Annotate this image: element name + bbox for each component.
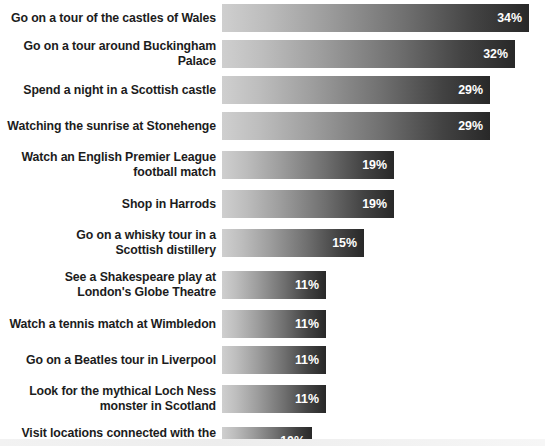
bar-category-label-text: Watch a tennis match at Wimbledon: [9, 317, 216, 332]
bar-track: 29%: [222, 72, 545, 108]
bar-row: Go on a Beatles tour in Liverpool11%: [0, 342, 545, 378]
bar-track: 11%: [222, 264, 545, 306]
bar-category-label-text: Watch an English Premier League football…: [21, 150, 216, 179]
bar: 32%: [222, 40, 515, 68]
bar-row: Go on a tour around Buckingham Palace32%: [0, 36, 545, 72]
bar-category-label-text: Go on a whisky tour in a Scottish distil…: [76, 228, 216, 257]
bar-category-label-text: Go on a tour around Buckingham Palace: [0, 39, 216, 68]
bar: 19%: [222, 190, 394, 218]
bar-category-label: Watch a tennis match at Wimbledon: [0, 306, 222, 342]
bar-row: Watching the sunrise at Stonehenge29%: [0, 108, 545, 144]
bar-track: 19%: [222, 186, 545, 222]
bar-chart: Go on a tour of the castles of Wales34%G…: [0, 0, 545, 446]
bar: 19%: [222, 151, 394, 179]
bar-category-label: Spend a night in a Scottish castle: [0, 72, 222, 108]
bar-category-label-text: Look for the mythical Loch Ness monster …: [29, 384, 216, 413]
bar-track: 11%: [222, 378, 545, 420]
bar: 34%: [222, 4, 529, 32]
bar-category-label-text: Watching the sunrise at Stonehenge: [7, 119, 216, 134]
bar-track: 34%: [222, 0, 545, 36]
bar-category-label: Go on a tour around Buckingham Palace: [0, 36, 222, 72]
bar-track: 29%: [222, 108, 545, 144]
bar-category-label: Watch an English Premier League football…: [0, 144, 222, 186]
bar-category-label: Watching the sunrise at Stonehenge: [0, 108, 222, 144]
bar: 29%: [222, 76, 490, 104]
bar-value-label: 32%: [483, 47, 515, 61]
bar-category-label: Look for the mythical Loch Ness monster …: [0, 378, 222, 420]
bar-value-label: 19%: [362, 197, 394, 211]
bar-value-label: 34%: [497, 11, 529, 25]
bar-category-label: Go on a tour of the castles of Wales: [0, 0, 222, 36]
bar-category-label: Go on a whisky tour in a Scottish distil…: [0, 222, 222, 264]
bar-track: 32%: [222, 36, 545, 72]
bar-category-label-text: Go on a Beatles tour in Liverpool: [26, 353, 216, 368]
bar-value-label: 11%: [295, 317, 326, 331]
bar-value-label: 11%: [295, 278, 326, 292]
bar-row: Spend a night in a Scottish castle29%: [0, 72, 545, 108]
bar-category-label-text: See a Shakespeare play at London's Globe…: [65, 270, 216, 299]
bar-value-label: 19%: [362, 158, 394, 172]
bar-row: Go on a tour of the castles of Wales34%: [0, 0, 545, 36]
bar-track: 11%: [222, 342, 545, 378]
bar: 15%: [222, 229, 364, 257]
bar: 11%: [222, 310, 326, 338]
bar-row: Go on a whisky tour in a Scottish distil…: [0, 222, 545, 264]
bar-row: Shop in Harrods19%: [0, 186, 545, 222]
bar-row: Look for the mythical Loch Ness monster …: [0, 378, 545, 420]
bar-row: Watch a tennis match at Wimbledon11%: [0, 306, 545, 342]
bar-category-label: See a Shakespeare play at London's Globe…: [0, 264, 222, 306]
bar-value-label: 29%: [458, 83, 490, 97]
bar-track: 11%: [222, 306, 545, 342]
bar-value-label: 11%: [295, 392, 326, 406]
bar-value-label: 11%: [295, 353, 326, 367]
bar-value-label: 15%: [332, 236, 364, 250]
bar: 29%: [222, 112, 490, 140]
bar-value-label: 29%: [458, 119, 490, 133]
bar-category-label: Go on a Beatles tour in Liverpool: [0, 342, 222, 378]
bar: 11%: [222, 385, 326, 413]
bar-rows-container: Go on a tour of the castles of Wales34%G…: [0, 0, 545, 446]
bar-track: 15%: [222, 222, 545, 264]
bar-row: Watch an English Premier League football…: [0, 144, 545, 186]
bar-track: 19%: [222, 144, 545, 186]
bar-category-label: Shop in Harrods: [0, 186, 222, 222]
bar-category-label-text: Go on a tour of the castles of Wales: [11, 11, 216, 26]
bottom-band: [0, 439, 545, 446]
bar: 11%: [222, 271, 326, 299]
bar-row: See a Shakespeare play at London's Globe…: [0, 264, 545, 306]
bar: 11%: [222, 346, 326, 374]
bar-category-label-text: Spend a night in a Scottish castle: [23, 83, 216, 98]
bar-category-label-text: Shop in Harrods: [122, 197, 216, 212]
